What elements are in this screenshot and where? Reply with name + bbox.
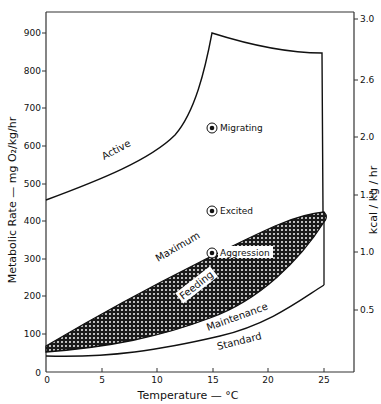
point-excited: Excited bbox=[207, 206, 253, 216]
x-tick-25: 25 bbox=[318, 375, 329, 385]
metabolic-rate-chart: 900 800 700 600 500 400 300 200 100 0 0 … bbox=[0, 0, 381, 404]
x-axis-label: Temperature — °C bbox=[137, 389, 239, 402]
y-tick-100: 100 bbox=[24, 329, 41, 339]
x-tick-10: 10 bbox=[151, 375, 163, 385]
x-tick-5: 5 bbox=[99, 375, 105, 385]
y-tick-0: 0 bbox=[35, 368, 41, 378]
y-tick-700: 700 bbox=[24, 103, 41, 113]
x-axis: 0 5 10 15 20 25 Temperature — °C bbox=[44, 368, 330, 402]
yr-tick-0.5: 0.5 bbox=[360, 305, 374, 315]
y-tick-800: 800 bbox=[24, 66, 41, 76]
active-label: Active bbox=[100, 138, 132, 162]
y-tick-400: 400 bbox=[24, 216, 41, 226]
y-axis-left: 900 800 700 600 500 400 300 200 100 0 bbox=[24, 28, 46, 378]
aggression-label: Aggression bbox=[220, 248, 270, 258]
x-tick-0: 0 bbox=[44, 375, 50, 385]
point-migrating: Migrating bbox=[207, 123, 263, 133]
y-axis-right-label: kcal / kg / hr bbox=[367, 165, 380, 234]
y-tick-600: 600 bbox=[24, 141, 41, 151]
yr-tick-1.0: 1.0 bbox=[360, 247, 375, 257]
yr-tick-2.0: 2.0 bbox=[360, 132, 375, 142]
y-axis-right: 3.0 2.6 2.0 1.5 1.0 0.5 kcal / kg / hr bbox=[354, 14, 380, 315]
feeding-region bbox=[46, 212, 326, 352]
x-tick-20: 20 bbox=[262, 375, 274, 385]
x-tick-15: 15 bbox=[207, 375, 218, 385]
migrating-label: Migrating bbox=[220, 123, 263, 133]
standard-label: Standard bbox=[216, 330, 263, 352]
y-tick-200: 200 bbox=[24, 291, 41, 301]
maximum-label: Maximum bbox=[154, 230, 202, 264]
excited-label: Excited bbox=[220, 206, 253, 216]
y-tick-900: 900 bbox=[24, 28, 41, 38]
y-tick-500: 500 bbox=[24, 179, 41, 189]
y-axis-left-label: Metabolic Rate — mg O₂/kg/hr bbox=[6, 116, 19, 283]
yr-tick-3.0: 3.0 bbox=[360, 14, 375, 24]
y-tick-300: 300 bbox=[24, 254, 41, 264]
active-curve bbox=[46, 33, 323, 212]
yr-tick-2.6: 2.6 bbox=[360, 75, 375, 85]
